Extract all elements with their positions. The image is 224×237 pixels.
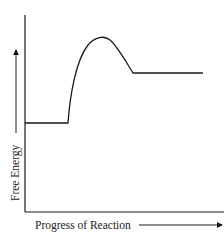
y-axis-label: Free Energy (9, 144, 22, 201)
energy-curve (25, 37, 203, 123)
x-axis-label: Progress of Reaction (35, 219, 131, 232)
energy-diagram: Progress of Reaction Free Energy (0, 0, 224, 237)
